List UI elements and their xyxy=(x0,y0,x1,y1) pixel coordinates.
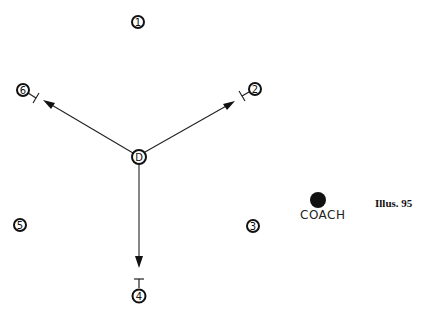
pass-line-d-to-2 xyxy=(145,105,228,152)
screen-mark-6 xyxy=(28,93,36,98)
coach-dot-icon xyxy=(310,192,326,208)
player-3: 3 xyxy=(247,220,259,232)
arrowhead-icon xyxy=(43,100,55,109)
screen-mark-6-bar xyxy=(33,93,39,103)
coach-label: COACH xyxy=(300,208,346,222)
player-2: 2 xyxy=(249,83,261,95)
arrowhead-icon xyxy=(135,256,143,268)
player-2-label: 2 xyxy=(252,84,258,95)
screen-mark-2-bar xyxy=(239,91,245,101)
player-1: 1 xyxy=(132,16,144,28)
player-5-label: 5 xyxy=(17,220,23,231)
player-d-label: D xyxy=(135,152,143,163)
player-6-label: 6 xyxy=(20,85,26,96)
player-5: 5 xyxy=(14,219,26,231)
screen-mark-2 xyxy=(242,92,249,96)
player-d: D xyxy=(132,150,146,164)
illustration-caption: Illus. 95 xyxy=(375,197,413,209)
pass-line-d-to-6 xyxy=(50,104,133,153)
play-diagram: D 1 2 3 4 5 6 COACH Illus. 95 xyxy=(0,0,428,319)
player-4-label: 4 xyxy=(136,291,142,302)
pass-arrows xyxy=(43,100,235,268)
player-1-label: 1 xyxy=(135,17,141,28)
player-6: 6 xyxy=(17,84,29,96)
player-4: 4 xyxy=(133,290,146,303)
arrowhead-icon xyxy=(223,101,235,110)
coach: COACH xyxy=(300,192,346,222)
player-3-label: 3 xyxy=(250,221,256,232)
